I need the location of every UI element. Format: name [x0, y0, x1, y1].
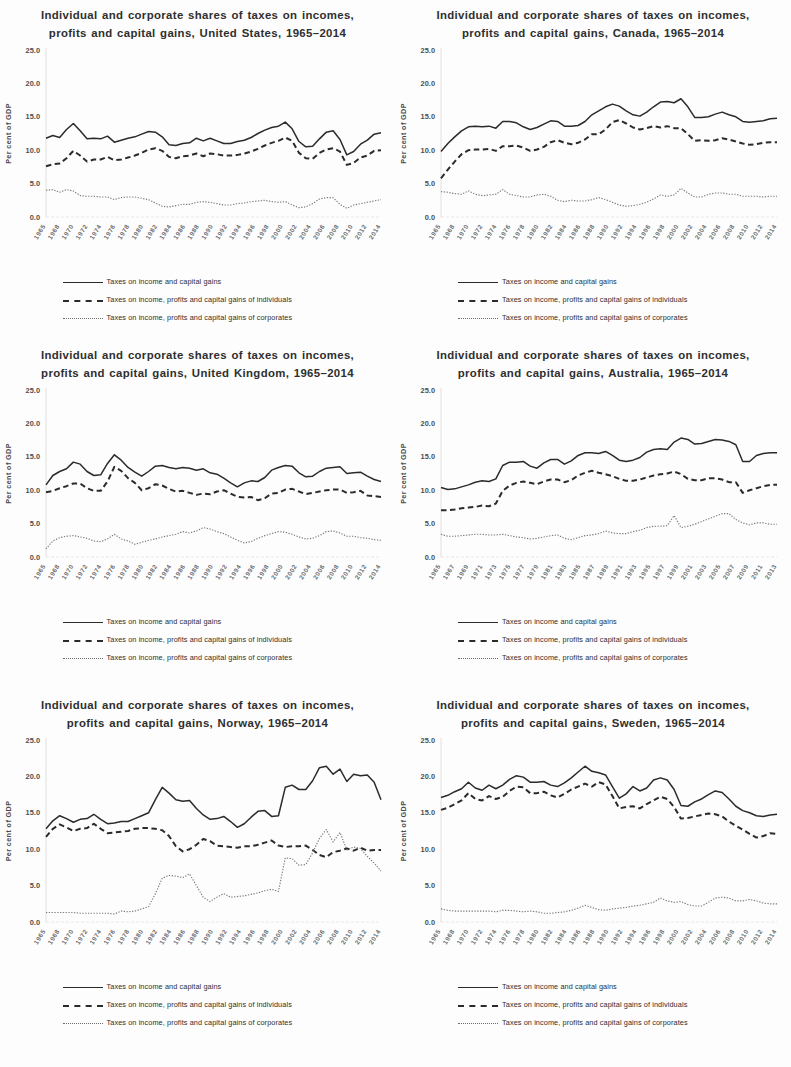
- x-axis-tick-label: 2004: [297, 563, 312, 581]
- x-axis-tick-label: 1978: [511, 223, 526, 241]
- x-axis-tick-label: 2008: [325, 563, 340, 581]
- x-axis-tick-label: 1982: [539, 223, 554, 241]
- series-line-dashed: [441, 783, 777, 838]
- chart-title-line2: profits and capital gains, Sweden, 1965–…: [417, 715, 769, 733]
- x-axis-tick-label: 2008: [721, 223, 736, 241]
- legend-item-2: Taxes on income, profits and capital gai…: [63, 1000, 333, 1009]
- x-axis-tick-label: 1980: [130, 928, 145, 946]
- legend-label: Taxes on income and capital gains: [502, 617, 617, 626]
- y-axis-tick-label: 5.0: [30, 520, 40, 529]
- chart-title-line1: Individual and corporate shares of taxes…: [41, 349, 354, 361]
- y-axis-tick-label: 0.0: [30, 213, 40, 222]
- series-line-dashed: [46, 467, 381, 500]
- series-line-dotted: [441, 514, 777, 540]
- x-axis-tick-label: 2004: [693, 223, 708, 241]
- x-axis-tick-label: 1980: [130, 563, 145, 581]
- y-axis-tick-label: 20.0: [421, 419, 435, 428]
- x-axis-tick-label: 1996: [242, 563, 257, 581]
- x-axis-tick-label: 2011: [749, 563, 764, 581]
- x-axis-tick-label: 1992: [609, 928, 624, 946]
- chart-title: Individual and corporate shares of taxes…: [0, 690, 395, 732]
- x-axis-tick-label: 1978: [116, 563, 131, 581]
- x-axis-tick-label: 1974: [88, 563, 103, 581]
- x-axis-tick-label: 2009: [735, 563, 750, 581]
- legend-item-1: Taxes on income and capital gains: [458, 982, 728, 991]
- legend-line-dotted-icon: [458, 313, 498, 322]
- x-axis-tick-label: 1972: [74, 928, 89, 946]
- x-axis-tick-label: 1974: [483, 223, 498, 241]
- x-axis-tick-label: 1973: [483, 563, 498, 581]
- legend-line-solid-icon: [63, 982, 103, 991]
- x-axis-tick-label: 2012: [353, 223, 368, 241]
- chart-title-line1: Individual and corporate shares of taxes…: [41, 699, 354, 711]
- x-axis-tick-label: 1982: [144, 223, 159, 241]
- x-axis-tick-label: 1984: [158, 563, 173, 581]
- x-axis-tick-label: 1968: [46, 928, 61, 946]
- legend-line-solid-icon: [63, 617, 103, 626]
- x-axis-tick-label: 2002: [679, 223, 694, 241]
- legend-line-solid-icon: [458, 277, 498, 286]
- series-line-solid: [441, 767, 777, 817]
- legend-item-3: Taxes on income, profits and capital gai…: [63, 653, 333, 662]
- x-axis-tick-label: 1968: [46, 223, 61, 241]
- y-axis-tick-label: 10.0: [26, 845, 40, 854]
- legend-label: Taxes on income, profits and capital gai…: [502, 313, 688, 322]
- y-axis-title: Per cent of GDP: [399, 801, 408, 862]
- legend-line-dashed-icon: [63, 1000, 103, 1009]
- x-axis-tick-label: 1978: [116, 928, 131, 946]
- x-axis-tick-label: 2014: [763, 223, 778, 241]
- chart-title-line2: profits and capital gains, Canada, 1965–…: [417, 25, 769, 43]
- x-axis-tick-label: 1965: [32, 563, 47, 581]
- legend-label: Taxes on income, profits and capital gai…: [107, 1018, 293, 1027]
- x-axis-tick-label: 1990: [200, 223, 215, 241]
- chart-title-line2: profits and capital gains, Australia, 19…: [417, 365, 769, 383]
- y-axis-tick-label: 20.0: [26, 79, 40, 88]
- x-axis-tick-label: 2004: [297, 223, 312, 241]
- x-axis-tick-label: 1982: [144, 563, 159, 581]
- chart-panel-sweden: Individual and corporate shares of taxes…: [395, 690, 791, 1067]
- legend-item-1: Taxes on income and capital gains: [458, 277, 728, 286]
- x-axis-tick-label: 1986: [172, 563, 187, 581]
- chart-title: Individual and corporate shares of taxes…: [395, 0, 791, 42]
- legend-item-1: Taxes on income and capital gains: [63, 617, 333, 626]
- chart-svg: 25.020.015.010.05.00.0Per cent of GDP196…: [0, 42, 395, 275]
- chart-panel-canada: Individual and corporate shares of taxes…: [395, 0, 791, 340]
- x-axis-tick-label: 2002: [283, 928, 298, 946]
- y-axis-tick-label: 15.0: [26, 453, 40, 462]
- chart-title: Individual and corporate shares of taxes…: [0, 0, 395, 42]
- x-axis-tick-label: 2008: [325, 223, 340, 241]
- x-axis-tick-label: 1992: [214, 223, 229, 241]
- y-axis-tick-label: 20.0: [421, 772, 435, 781]
- x-axis-tick-label: 2006: [707, 928, 722, 946]
- x-axis-tick-label: 1994: [228, 223, 243, 241]
- x-axis-tick-label: 1992: [609, 223, 624, 241]
- x-axis-tick-label: 1986: [172, 928, 187, 946]
- legend-label: Taxes on income, profits and capital gai…: [107, 295, 292, 304]
- x-axis-tick-label: 2012: [353, 928, 368, 946]
- x-axis-tick-label: 2006: [311, 223, 326, 241]
- x-axis-tick-label: 1997: [651, 563, 666, 581]
- x-axis-tick-label: 1976: [102, 563, 117, 581]
- x-axis-tick-label: 1984: [553, 223, 568, 241]
- legend-label: Taxes on income, profits and capital gai…: [502, 635, 687, 644]
- legend-label: Taxes on income, profits and capital gai…: [502, 295, 687, 304]
- x-axis-tick-label: 2012: [749, 928, 764, 946]
- x-axis-tick-label: 1975: [497, 563, 512, 581]
- x-axis-tick-label: 2010: [735, 223, 750, 241]
- chart-legend: Taxes on income and capital gainsTaxes o…: [63, 277, 333, 322]
- x-axis-tick-label: 2008: [721, 928, 736, 946]
- x-axis-tick-label: 1970: [60, 563, 75, 581]
- series-line-dashed: [46, 824, 381, 857]
- legend-line-solid-icon: [458, 617, 498, 626]
- x-axis-tick-label: 1965: [32, 928, 47, 946]
- legend-item-2: Taxes on income, profits and capital gai…: [458, 1000, 728, 1009]
- x-axis-tick-label: 1998: [651, 928, 666, 946]
- legend-label: Taxes on income, profits and capital gai…: [107, 653, 293, 662]
- legend-item-3: Taxes on income, profits and capital gai…: [63, 1018, 333, 1027]
- legend-item-1: Taxes on income and capital gains: [458, 617, 728, 626]
- x-axis-tick-label: 1996: [242, 223, 257, 241]
- x-axis-tick-label: 1977: [511, 563, 526, 581]
- x-axis-tick-label: 1998: [255, 223, 270, 241]
- legend-line-dotted-icon: [63, 313, 103, 322]
- x-axis-tick-label: 1995: [637, 563, 652, 581]
